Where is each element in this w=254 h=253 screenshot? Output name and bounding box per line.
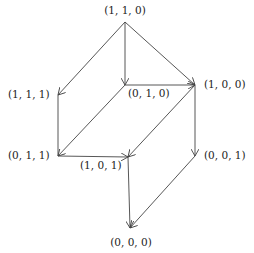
node-label-n001: (0, 0, 1) xyxy=(204,149,246,161)
node-label-n010: (0, 1, 0) xyxy=(128,87,170,99)
labels-group: (1, 1, 0)(1, 1, 1)(0, 1, 0)(1, 0, 0)(0, … xyxy=(8,4,246,248)
edge-n110-to-n100 xyxy=(125,22,195,85)
node-label-n011: (0, 1, 1) xyxy=(8,149,50,161)
edge-n110-to-n111 xyxy=(58,22,125,95)
node-label-n110: (1, 1, 0) xyxy=(104,4,146,16)
edge-n001-to-n000 xyxy=(130,156,195,228)
node-label-n101: (1, 0, 1) xyxy=(80,159,122,171)
lattice-diagram: (1, 1, 0)(1, 1, 1)(0, 1, 0)(1, 0, 0)(0, … xyxy=(0,0,254,253)
edges-group xyxy=(58,22,195,228)
edge-n011-to-n101 xyxy=(58,156,128,157)
node-label-n000: (0, 0, 0) xyxy=(110,236,152,248)
node-label-n100: (1, 0, 0) xyxy=(204,78,246,90)
node-label-n111: (1, 1, 1) xyxy=(8,88,50,100)
edge-n010-to-n011 xyxy=(58,85,125,156)
edge-n101-to-n000 xyxy=(128,157,130,228)
